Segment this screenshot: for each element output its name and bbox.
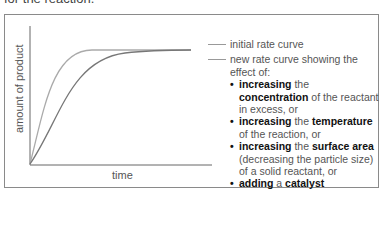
legend-swatch-initial [208,44,226,45]
factor-list: increasing the concentration of the reac… [230,78,380,190]
legend-new-label: new rate curve showing the effect of: [230,53,358,77]
factor-item: increasing the surface area (decreasing … [230,140,380,177]
factor-item: increasing the temperature of the reacti… [230,115,380,140]
legend-initial-label: initial rate curve [230,38,304,50]
new-rate-curve [30,50,191,164]
legend-swatch-new [208,59,226,60]
x-axis-label: time [112,169,133,181]
legend: initial rate curve new rate curve showin… [208,38,380,190]
initial-rate-curve [30,50,191,164]
factor-item: adding a catalyst [230,177,380,189]
legend-new: new rate curve showing the effect of: in… [208,53,380,189]
factor-item: increasing the concentration of the reac… [230,78,380,115]
y-axis-label: amount of product [13,53,25,133]
legend-initial: initial rate curve [208,38,380,50]
